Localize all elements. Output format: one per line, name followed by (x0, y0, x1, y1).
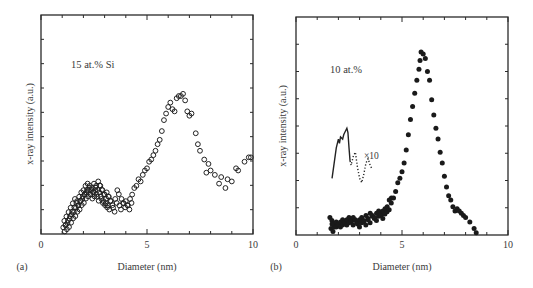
annotation-a: 15 at.% Si (71, 59, 115, 70)
data-point (446, 193, 451, 198)
data-point (330, 229, 335, 234)
data-point (157, 137, 162, 142)
x-tick-label-10-a: 10 (248, 239, 258, 250)
data-point (374, 218, 379, 223)
data-point (436, 137, 441, 142)
data-point (363, 222, 368, 227)
x-tick-label-0-a: 0 (39, 239, 44, 250)
data-point (444, 185, 449, 190)
data-point (391, 195, 396, 200)
data-point (406, 132, 411, 137)
data-point (425, 69, 430, 74)
data-point (206, 162, 211, 167)
data-point (229, 179, 234, 184)
data-point (416, 67, 421, 72)
x-tick-label-5-a: 5 (145, 239, 150, 250)
plot-frame-b (296, 17, 508, 235)
data-point (153, 148, 158, 153)
data-point (219, 175, 224, 180)
y-axis-label-a: x-ray intensity (a.u.) (24, 83, 36, 165)
ticks-b (296, 17, 508, 235)
data-point (472, 226, 477, 231)
data-point (387, 207, 392, 212)
data-point (442, 174, 447, 179)
data-point (198, 148, 203, 153)
data-point (410, 104, 415, 109)
data-point (440, 161, 445, 166)
x-tick-label-10-b: 10 (503, 239, 513, 250)
x-axis-label-a: Diameter (nm) (117, 261, 176, 273)
data-point (168, 100, 173, 105)
panel-label-a: (a) (16, 261, 27, 273)
data-point (217, 181, 222, 186)
panel-a: 15 at.% Si 0 5 10 Diameter (nm) (a) x-ra… (16, 15, 258, 273)
inset-label-x10: ×10 (364, 151, 379, 161)
panel-b: 10 at.% ×10 0 5 10 Diameter (nm) (b) x-r… (270, 17, 513, 273)
data-point (429, 97, 434, 102)
data-point (400, 169, 405, 174)
data-point (408, 117, 413, 122)
data-point (223, 186, 228, 191)
data-point (130, 192, 135, 197)
data-point (389, 201, 394, 206)
data-point (448, 198, 453, 203)
data-point (402, 161, 407, 166)
data-point (193, 131, 198, 136)
data-point (183, 98, 188, 103)
x-tick-label-5-b: 5 (400, 239, 405, 250)
x-tick-label-0-b: 0 (294, 239, 299, 250)
data-point (404, 147, 409, 152)
data-point (164, 111, 169, 116)
data-point (450, 204, 455, 209)
y-axis-label-b: x-ray intensity (a.u.) (277, 85, 289, 167)
data-point (467, 219, 472, 224)
panel-label-b: (b) (270, 261, 282, 273)
data-point (397, 176, 402, 181)
data-points-a (61, 91, 253, 233)
data-point (159, 129, 164, 134)
data-point (431, 113, 436, 118)
data-point (423, 56, 428, 61)
data-point (427, 78, 432, 83)
data-point (414, 78, 419, 83)
data-point (421, 52, 426, 57)
data-point (395, 180, 400, 185)
figure: 15 at.% Si 0 5 10 Diameter (nm) (a) x-ra… (0, 0, 533, 288)
data-point (162, 118, 167, 123)
data-point (357, 225, 362, 230)
data-point (195, 142, 200, 147)
data-point (433, 126, 438, 131)
data-point (463, 215, 468, 220)
data-point (242, 159, 247, 164)
data-point (474, 230, 479, 235)
data-point (351, 222, 356, 227)
data-point (418, 58, 423, 63)
data-point (208, 168, 213, 173)
data-point (393, 189, 398, 194)
data-point (438, 150, 443, 155)
data-point (380, 216, 385, 221)
data-points-b (327, 49, 478, 235)
data-point (368, 220, 373, 225)
x-axis-label-b: Diameter (nm) (372, 261, 431, 273)
data-point (212, 172, 217, 177)
annotation-b: 10 at.% (330, 64, 362, 75)
inset-curve-solid (332, 128, 350, 178)
data-point (202, 157, 207, 162)
data-point (412, 91, 417, 96)
